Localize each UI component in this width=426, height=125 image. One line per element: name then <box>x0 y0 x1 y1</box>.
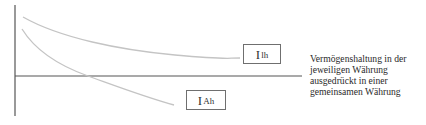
description-line-3: ausgedrückt in einer <box>310 75 426 86</box>
label-ih-sub: lh <box>261 51 268 60</box>
label-iah-main: I <box>198 94 202 107</box>
label-iah-sub: Ah <box>203 97 214 106</box>
description-line-2: jeweiligen Währung <box>310 64 426 75</box>
description-line-4: gemeinsamen Währung <box>310 86 426 97</box>
axis-description: Vermögenshaltung in der jeweiligen Währu… <box>310 53 426 97</box>
description-line-1: Vermögenshaltung in der <box>310 53 426 64</box>
label-ih-main: I <box>256 48 260 61</box>
curve-ih <box>23 17 240 58</box>
label-box-ih: Ilh <box>243 44 281 64</box>
label-box-iah: IAh <box>186 90 226 110</box>
curve-iah <box>22 29 174 105</box>
